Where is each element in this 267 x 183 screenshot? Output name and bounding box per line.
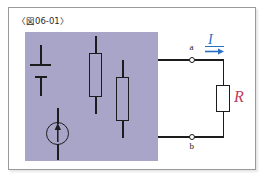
current-arrow-right-icon — [205, 49, 224, 55]
figure-page: 〈図06-01〉 — [0, 0, 267, 183]
figure-frame: 〈図06-01〉 — [8, 7, 256, 170]
current-arrow-layer — [9, 8, 257, 171]
